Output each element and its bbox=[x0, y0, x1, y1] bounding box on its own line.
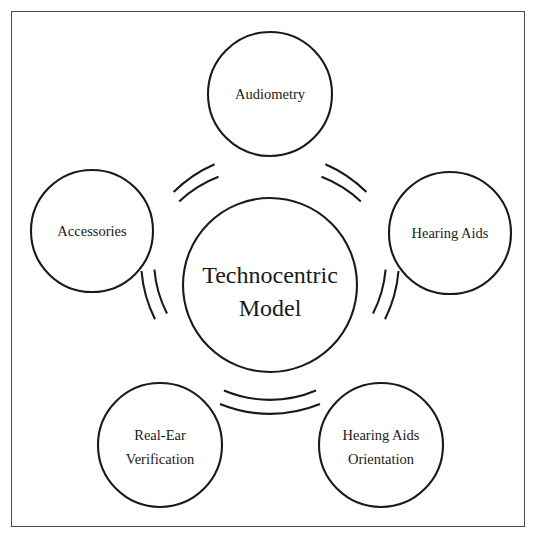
node-label-audiometry: Audiometry bbox=[235, 86, 306, 102]
band-inner-arc-realear-accessories bbox=[154, 270, 167, 314]
node-circle-real-ear-verification[interactable] bbox=[98, 383, 222, 507]
node-label-hearing-aids: Hearing Aids bbox=[412, 225, 489, 241]
center-label-line2: Model bbox=[239, 295, 302, 321]
technocentric-model-diagram: Audiometry Hearing Aids Hearing Aids Ori… bbox=[0, 0, 540, 538]
band-outer-arc-orientation-realear bbox=[220, 404, 320, 414]
center-label-line1: Technocentric bbox=[202, 262, 338, 288]
node-label-hearing-aids-orientation-line1: Hearing Aids bbox=[343, 427, 420, 443]
diagram-page: Audiometry Hearing Aids Hearing Aids Ori… bbox=[0, 0, 540, 538]
node-label-real-ear-verification-line1: Real-Ear bbox=[134, 427, 186, 443]
band-outer-arc-realear-accessories bbox=[142, 271, 156, 319]
band-inner-arc-accessories-audiometry bbox=[179, 177, 218, 202]
band-outer-arc-hearingaids-orientation bbox=[385, 271, 399, 319]
band-inner-arc-audiometry-hearingaids bbox=[322, 177, 361, 202]
band-inner-arc-hearingaids-orientation bbox=[373, 270, 386, 314]
node-label-hearing-aids-orientation-line2: Orientation bbox=[348, 451, 415, 467]
band-outer-arc-audiometry-hearingaids bbox=[325, 164, 366, 192]
node-label-real-ear-verification-line2: Verification bbox=[126, 451, 195, 467]
node-circle-hearing-aids-orientation[interactable] bbox=[319, 383, 443, 507]
band-outer-arc-accessories-audiometry bbox=[174, 164, 215, 192]
node-label-accessories: Accessories bbox=[57, 223, 127, 239]
band-inner-arc-orientation-realear bbox=[224, 391, 316, 400]
